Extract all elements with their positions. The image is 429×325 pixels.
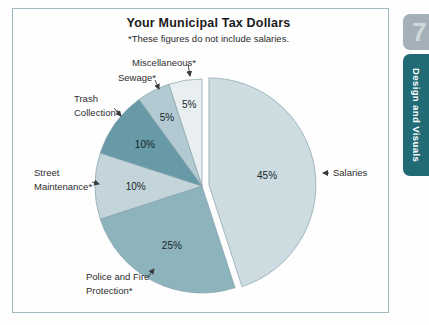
pct-label-0: 45%: [257, 170, 277, 181]
pct-label-2: 10%: [126, 181, 146, 192]
slice-label-police-fire: Police and Fire Protection*: [86, 270, 162, 298]
slice-label-miscellaneous: Miscellaneous*: [118, 56, 196, 70]
slice-label-trash-collection: Trash Collection*: [74, 92, 126, 120]
slice-label-street-maintenance: Street Maintenance*: [34, 166, 98, 194]
pie-chart: 45%25%10%10%5%5%: [12, 8, 389, 313]
pct-label-3: 10%: [135, 139, 155, 150]
slice-label-salaries: Salaries: [333, 166, 385, 180]
pct-label-1: 25%: [162, 240, 182, 251]
pct-label-5: 5%: [182, 99, 197, 110]
chapter-tab-number: 7: [403, 14, 429, 50]
page: Your Municipal Tax Dollars *These figure…: [0, 0, 429, 325]
pie-slice-0: [209, 78, 316, 287]
chapter-tab: Design and Visuals: [403, 54, 429, 176]
slice-label-sewage: Sewage*: [108, 71, 156, 85]
chapter-number: 7: [412, 17, 426, 48]
chapter-tab-label: Design and Visuals: [411, 68, 422, 162]
pct-label-4: 5%: [160, 112, 175, 123]
